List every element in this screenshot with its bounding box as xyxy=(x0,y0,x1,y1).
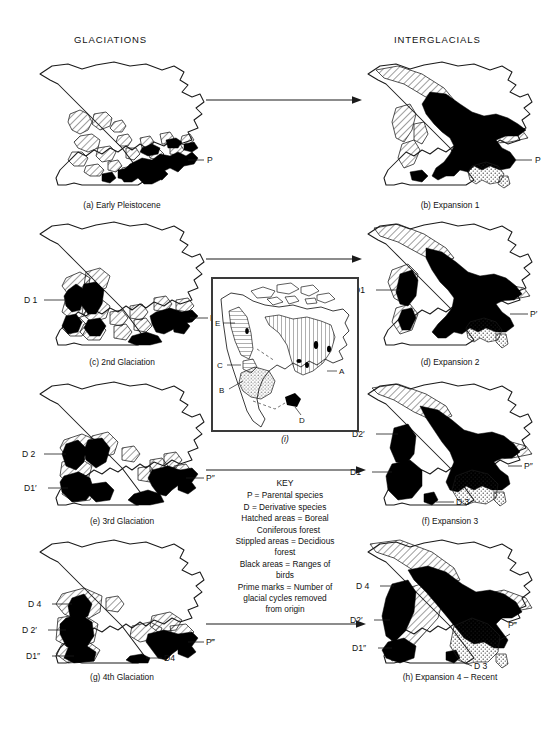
panel-c-caption: (c) 2nd Glaciation xyxy=(22,357,222,367)
inset-reference-map: E C B A D xyxy=(211,277,359,432)
panel-g-label-d4-lower: D4 xyxy=(164,653,175,663)
inset-label-e: E xyxy=(215,319,220,328)
panel-e-label-d1-prime: D1′ xyxy=(24,483,37,493)
panel-d-label-p-prime: P′ xyxy=(530,309,538,319)
panel-e-caption: (e) 3rd Glaciation xyxy=(22,516,222,526)
inset-caption: (i) xyxy=(211,434,359,444)
panel-a-early-pleistocene: P xyxy=(22,52,222,202)
key-line-parental: P = Parental species xyxy=(196,490,374,501)
flow-arrow-e-to-f xyxy=(206,464,366,476)
panel-f-label-d3: D 3 xyxy=(456,497,470,507)
inset-label-c: C xyxy=(217,361,223,370)
panel-e-label-d2: D 2 xyxy=(22,449,36,459)
inset-leader-d xyxy=(295,407,301,415)
panel-a-caption: (a) Early Pleistocene xyxy=(22,200,222,210)
panel-d-expansion-2: D1 P′ xyxy=(350,212,550,362)
panel-g-4th-glaciation: D 4 D 2′ D1″ D4 P‴ xyxy=(22,530,222,680)
panel-f-label-p-double-prime: P″ xyxy=(524,461,533,471)
panel-g-label-d1-double-prime: D1″ xyxy=(26,651,40,661)
d2-prime-range xyxy=(390,424,416,464)
panel-h-label-p-triple-prime: P‴ xyxy=(508,620,518,630)
panel-c-2nd-glaciation: D 1 P′ xyxy=(22,212,222,362)
panel-g-label-d4: D 4 xyxy=(28,599,42,609)
panel-h-caption: (h) Expansion 4 – Recent xyxy=(350,672,550,682)
panel-c-label-d1: D 1 xyxy=(24,295,38,305)
key-legend: KEY P = Parental species D = Derivative … xyxy=(196,478,374,616)
key-line-stippled: Stippled areas = Decidious forest xyxy=(196,536,374,559)
panel-g-caption: (g) 4th Glaciation xyxy=(22,672,222,682)
key-line-black: Black areas = Ranges of birds xyxy=(196,559,374,582)
panel-h-label-d3: D 3 xyxy=(474,661,488,671)
column-header-interglacials: INTERGLACIALS xyxy=(394,34,481,45)
key-line-derivative: D = Derivative species xyxy=(196,502,374,513)
panel-f-expansion-3: D2′ D1′ P″ D 3 xyxy=(350,372,550,522)
panel-g-label-p-triple-prime: P‴ xyxy=(206,637,216,647)
panel-h-label-d1-double-prime: D1″ xyxy=(352,643,366,653)
figure-root: GLACIATIONS INTERGLACIALS xyxy=(0,0,556,731)
key-title: KEY xyxy=(196,478,374,489)
flow-arrow-a-to-b xyxy=(206,94,362,106)
panel-e-3rd-glaciation: D 2 D1′ P″ xyxy=(22,372,222,522)
key-line-prime-marks: Prime marks = Number of glacial cycles r… xyxy=(196,582,374,616)
inset-label-a: A xyxy=(339,367,345,376)
panel-b-expansion-1: P xyxy=(350,52,550,202)
flow-arrow-g-to-h xyxy=(206,618,366,630)
inset-region-d xyxy=(285,393,301,407)
inset-label-b: B xyxy=(219,386,224,395)
inset-label-d: D xyxy=(299,416,305,425)
panel-a-label-p: P xyxy=(207,155,213,165)
panel-f-caption: (f) Expansion 3 xyxy=(350,516,550,526)
panel-b-label-p: P xyxy=(535,155,541,165)
panel-b-caption: (b) Expansion 1 xyxy=(350,200,550,210)
key-line-hatched: Hatched areas = Boreal Coniferous forest xyxy=(196,513,374,536)
panel-g-label-d2-prime: D 2′ xyxy=(22,625,37,635)
flow-arrow-c-to-d xyxy=(206,253,362,265)
column-header-glaciations: GLACIATIONS xyxy=(74,34,147,45)
panel-h-expansion-4-recent: D 4 D2′ D1″ D 3 P‴ xyxy=(350,530,550,680)
panel-d-caption: (d) Expansion 2 xyxy=(350,357,550,367)
